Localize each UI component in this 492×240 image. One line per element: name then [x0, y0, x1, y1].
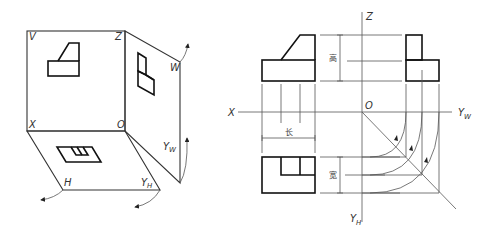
three-view-projection-diagram: V Z W X O H YH YW: [0, 0, 492, 240]
top-view: [262, 157, 315, 193]
dim-height-label: 高: [329, 53, 337, 63]
label-yw-right: YW: [458, 107, 472, 121]
dim-length-label: 长: [285, 127, 293, 137]
label-o: O: [117, 119, 125, 130]
arc-arrow-2: [409, 145, 413, 151]
arc-arrow-3: [424, 157, 428, 163]
w-plane: [125, 31, 180, 183]
projection-box-3d: V Z W X O H YH YW: [27, 31, 188, 207]
projection-lines-vertical: [262, 70, 439, 153]
dimension-width: 宽: [329, 157, 343, 193]
label-z: Z: [114, 31, 123, 42]
label-yh-right: YH: [350, 213, 362, 227]
v-plane-front-view: [48, 43, 79, 76]
label-w: W: [170, 62, 181, 73]
w-bottom-rotation-arrow: [180, 138, 187, 183]
w-plane-side-view: [138, 53, 154, 95]
label-yw: YW: [163, 141, 177, 154]
arc-arrow-1: [394, 135, 398, 141]
label-z-right: Z: [365, 11, 374, 22]
label-o-right: O: [365, 100, 373, 111]
label-x: X: [28, 119, 37, 130]
h-plane-top-view: [57, 147, 101, 162]
diagonal-45-line: [362, 112, 456, 209]
side-view: [406, 35, 439, 81]
orthographic-views: 高 长 宽 Z X O YW YH: [227, 11, 472, 227]
front-view: [262, 35, 315, 81]
label-x-right: X: [227, 107, 236, 118]
dimension-length: 长: [262, 127, 315, 141]
w-rotation-arrow: [180, 44, 188, 62]
h-right-rotation-arrow: [135, 190, 160, 207]
v-plane: [27, 31, 125, 131]
dim-width-label: 宽: [329, 170, 337, 180]
label-v: V: [29, 31, 37, 42]
label-h: H: [64, 177, 72, 188]
dimension-height: 高: [329, 35, 343, 81]
h-left-rotation-arrow: [41, 190, 63, 200]
label-yh: YH: [141, 177, 153, 190]
